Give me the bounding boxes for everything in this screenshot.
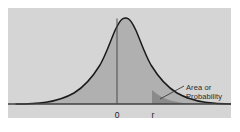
annotation-label-line-1: Area or [186,83,211,92]
x-axis-tick-label-zero: 0 [110,110,124,120]
figure-root: Area or Probability 0 r [0,0,240,132]
x-axis-tick-label-r: r [146,110,160,120]
chart-panel [8,8,231,118]
annotation-label-line-2: Probability [186,92,222,101]
distribution-chart [8,8,231,118]
